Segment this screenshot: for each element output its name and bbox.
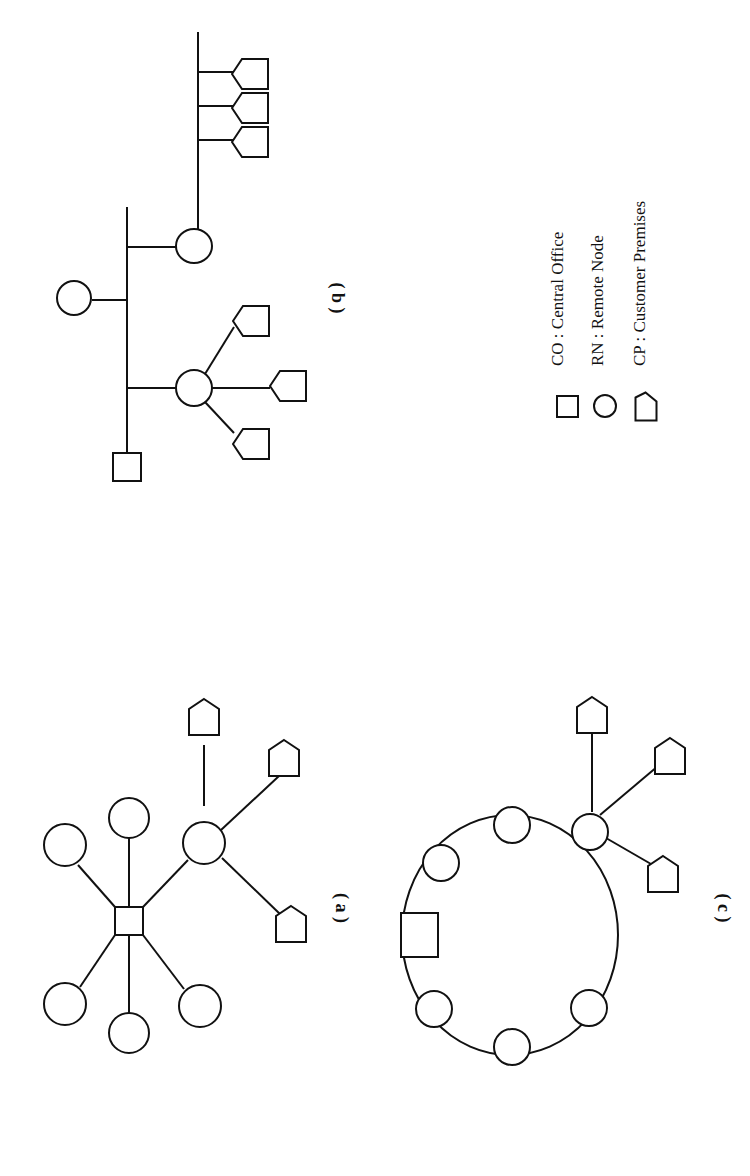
remote-node-circle <box>176 370 212 406</box>
panel-b-label: ( b ) <box>327 283 348 314</box>
remote-node-circle <box>423 845 459 881</box>
circle-icon <box>594 395 616 417</box>
remote-node-circle <box>57 281 91 315</box>
remote-node-circle <box>109 798 149 838</box>
customer-premises-pentagon <box>232 93 268 123</box>
legend: CO : Central Office RN : Remote Node CP … <box>548 201 657 421</box>
panel-c-label: ( c ) <box>713 894 734 923</box>
customer-premises-pentagon <box>232 127 268 157</box>
remote-node-circle <box>572 814 608 850</box>
remote-node-circle <box>176 229 212 263</box>
legend-co: CO : Central Office <box>548 232 567 366</box>
central-office-square <box>115 907 143 935</box>
customer-premises-pentagon <box>648 856 678 892</box>
remote-node-circle <box>494 1029 530 1065</box>
customer-premises-pentagon <box>233 306 269 336</box>
customer-premises-pentagon <box>655 738 685 774</box>
remote-node-circle <box>44 824 86 866</box>
customer-premises-pentagon <box>276 906 306 942</box>
pentagon-icon <box>636 393 657 421</box>
central-office-square <box>401 913 438 957</box>
legend-rn: RN : Remote Node <box>588 235 607 366</box>
remote-node-circle <box>183 822 225 864</box>
central-office-square <box>113 453 141 481</box>
remote-node-circle <box>494 807 530 843</box>
customer-premises-pentagon <box>233 429 269 459</box>
square-icon <box>557 396 578 417</box>
legend-cp: CP : Customer Premises <box>630 201 649 366</box>
panel-a-star-topology: ( a ) <box>44 699 352 1053</box>
remote-node-circle <box>179 985 221 1027</box>
remote-node-circle <box>109 1013 149 1053</box>
remote-node-circle <box>44 983 86 1025</box>
customer-premises-pentagon <box>232 59 268 89</box>
customer-premises-pentagon <box>577 697 607 733</box>
remote-node-circle <box>571 990 607 1026</box>
customer-premises-pentagon <box>270 371 306 401</box>
remote-node-circle <box>416 991 452 1027</box>
network-topology-figure: ( b ) CO : Central Office RN : Remote No… <box>0 0 750 1176</box>
panel-a-label: ( a ) <box>331 893 352 923</box>
customer-premises-pentagon <box>189 699 219 735</box>
panel-b-bus-topology: ( b ) <box>57 32 348 481</box>
customer-premises-pentagon <box>269 740 299 776</box>
panel-c-ring-topology: ( c ) <box>401 697 734 1065</box>
